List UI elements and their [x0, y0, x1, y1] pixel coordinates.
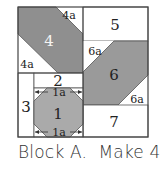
label-6a-top: 6a	[88, 45, 102, 58]
caption-make-label: Make 4	[98, 142, 160, 162]
label-4: 4	[44, 32, 54, 50]
label-4a-top: 4a	[62, 9, 76, 22]
label-1: 1	[53, 105, 63, 123]
label-5: 5	[110, 16, 120, 34]
label-3: 3	[21, 98, 31, 116]
label-7: 7	[109, 113, 119, 131]
label-1a-top: 1a	[52, 86, 66, 99]
label-1a-bottom: 1a	[52, 126, 66, 139]
label-6: 6	[109, 66, 119, 84]
caption-block-label: Block A.	[18, 142, 87, 162]
block-caption: Block A. Make 4	[18, 142, 158, 162]
label-6a-bottom: 6a	[130, 93, 144, 106]
label-4a-bottom: 4a	[20, 58, 34, 71]
